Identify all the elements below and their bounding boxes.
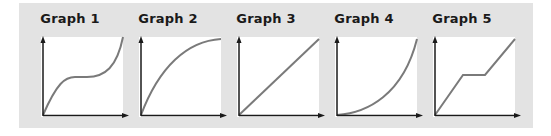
plot-area [335, 37, 417, 117]
graph-4: Graph 4 [315, 3, 413, 128]
graph-2: Graph 2 [119, 3, 217, 128]
graph-title: Graph 3 [217, 11, 315, 26]
graph-title: Graph 5 [413, 11, 511, 26]
graphs-panel: Graph 1 Graph 2 Graph 3 Graph 4 [19, 3, 533, 128]
plot-area [139, 37, 221, 117]
graph-5: Graph 5 [413, 3, 511, 128]
graph-3-plot [237, 37, 319, 117]
plot-area [433, 37, 515, 117]
graph-title: Graph 1 [21, 11, 119, 26]
graph-title: Graph 4 [315, 11, 413, 26]
graph-4-plot [335, 37, 417, 117]
graph-2-plot [139, 37, 221, 117]
plot-area [237, 37, 319, 117]
graph-1: Graph 1 [21, 3, 119, 128]
graph-3: Graph 3 [217, 3, 315, 128]
graph-1-plot [41, 37, 123, 117]
graph-title: Graph 2 [119, 11, 217, 26]
plot-area [41, 37, 123, 117]
graph-5-plot [433, 37, 515, 117]
